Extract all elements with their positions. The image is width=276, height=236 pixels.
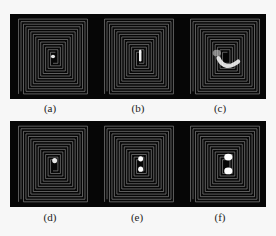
spiral-coil-graphic [98, 14, 180, 99]
spiral-coil-graphic [98, 121, 180, 207]
panel-f-image [184, 121, 266, 207]
spiral-coil-graphic [184, 14, 266, 99]
panel-label-f: (f) [200, 211, 240, 223]
panel-b-image [98, 14, 180, 99]
spiral-coil-graphic [184, 121, 266, 207]
panel-e-image [98, 121, 180, 207]
spiral-coil-graphic [12, 121, 94, 207]
panel-label-a: (a) [30, 102, 70, 114]
panel-label-d: (d) [30, 211, 70, 223]
panel-label-b: (b) [118, 102, 158, 114]
panel-c-image [184, 14, 266, 99]
panel-label-e: (e) [117, 211, 157, 223]
panel-a-image [12, 14, 94, 99]
figure-row-bottom [10, 121, 266, 207]
spiral-coil-graphic [12, 14, 94, 99]
panel-d-image [12, 121, 94, 207]
figure-row-top [10, 14, 266, 99]
panel-label-c: (c) [200, 102, 240, 114]
